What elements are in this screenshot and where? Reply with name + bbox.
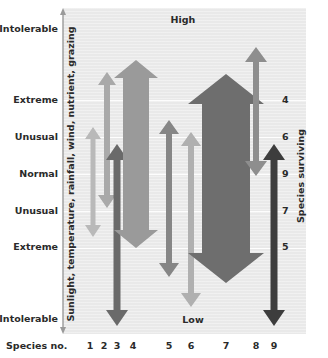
level-label-unusual-low: Unusual <box>15 205 58 216</box>
arrow-group <box>85 47 285 326</box>
species-label-8: 8 <box>253 340 260 351</box>
low-label: Low <box>182 314 203 325</box>
species-2-tolerance-arrow-icon <box>98 72 116 208</box>
surviving-count-unusual-high: 6 <box>282 131 289 142</box>
species-label-6: 6 <box>188 340 195 351</box>
level-label-intolerable-high: Intolerable <box>0 23 58 34</box>
level-label-extreme-high: Extreme <box>13 94 58 105</box>
high-label: High <box>171 14 196 25</box>
species-5-tolerance-arrow-icon <box>159 120 179 277</box>
surviving-count-extreme-low: 5 <box>282 241 289 252</box>
left-axis-title: Sunlight, temperature, rainfall, wind, n… <box>65 27 76 322</box>
species-label-2: 2 <box>101 340 108 351</box>
level-label-intolerable-low: Intolerable <box>0 313 58 324</box>
level-label-extreme-low: Extreme <box>13 241 58 252</box>
species-axis-title: Species no. <box>6 340 67 351</box>
level-label-normal: Normal <box>19 168 58 179</box>
surviving-count-extreme-high: 4 <box>282 94 289 105</box>
species-1-tolerance-arrow-icon <box>85 127 101 237</box>
right-axis-title: Species surviving <box>295 129 306 223</box>
species-label-1: 1 <box>87 340 94 351</box>
species-7-tolerance-arrow-icon <box>188 74 264 283</box>
species-label-7: 7 <box>223 340 230 351</box>
species-label-5: 5 <box>166 340 173 351</box>
species-label-4: 4 <box>130 340 137 351</box>
species-label-3: 3 <box>114 340 121 351</box>
species-tolerance-arrows <box>0 0 328 358</box>
level-label-unusual-high: Unusual <box>15 131 58 142</box>
species-label-9: 9 <box>271 340 278 351</box>
surviving-count-normal: 9 <box>282 168 289 179</box>
surviving-count-unusual-low: 7 <box>282 205 289 216</box>
species-6-tolerance-arrow-icon <box>181 132 201 307</box>
